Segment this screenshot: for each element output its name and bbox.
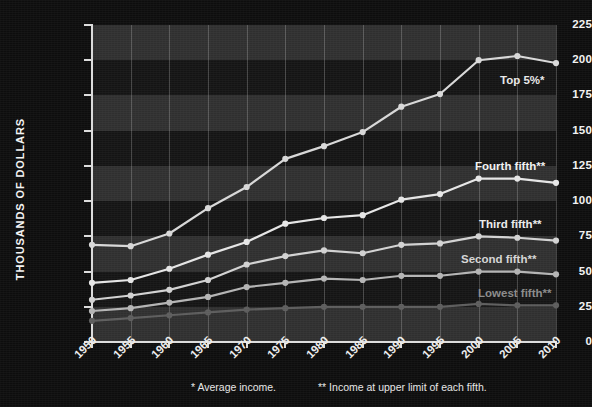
data-point: [360, 250, 366, 256]
data-point: [437, 240, 443, 246]
data-point: [89, 308, 95, 314]
data-point: [476, 268, 482, 274]
data-point: [128, 305, 134, 311]
data-point: [553, 271, 559, 277]
data-point: [244, 261, 250, 267]
data-point: [205, 294, 211, 300]
data-point: [553, 302, 559, 308]
data-point: [128, 315, 134, 321]
data-point: [514, 175, 520, 181]
footnote-average-income: * Average income.: [191, 381, 276, 393]
data-point: [360, 277, 366, 283]
data-point: [476, 233, 482, 239]
data-point: [514, 53, 520, 59]
data-point: [128, 292, 134, 298]
data-point: [244, 184, 250, 190]
data-point: [282, 280, 288, 286]
data-point: [128, 277, 134, 283]
data-point: [321, 247, 327, 253]
data-point: [476, 175, 482, 181]
data-point: [282, 305, 288, 311]
data-point: [514, 235, 520, 241]
data-point: [205, 205, 211, 211]
series-label-third-fifth: Third fifth**: [479, 218, 542, 230]
data-point: [514, 268, 520, 274]
data-point: [166, 230, 172, 236]
data-point: [166, 266, 172, 272]
data-point: [398, 273, 404, 279]
series-label-second-fifth: Second fifth**: [461, 253, 536, 265]
data-point: [89, 297, 95, 303]
data-point: [398, 304, 404, 310]
footnotes: * Average income.** Income at upper limi…: [191, 381, 487, 393]
data-point: [553, 237, 559, 243]
data-point: [205, 252, 211, 258]
data-point: [398, 242, 404, 248]
data-point: [244, 307, 250, 313]
data-point: [437, 273, 443, 279]
data-point: [205, 277, 211, 283]
data-point: [166, 287, 172, 293]
data-point: [398, 197, 404, 203]
series-lines: [0, 0, 592, 407]
data-point: [360, 129, 366, 135]
data-point: [476, 57, 482, 63]
data-point: [321, 143, 327, 149]
data-point: [205, 309, 211, 315]
data-point: [128, 243, 134, 249]
series-label-fourth-fifth: Fourth fifth**: [475, 160, 545, 172]
data-point: [360, 212, 366, 218]
data-point: [360, 304, 366, 310]
data-point: [89, 242, 95, 248]
data-point: [398, 104, 404, 110]
data-point: [553, 60, 559, 66]
series-line: [92, 179, 556, 283]
data-point: [244, 284, 250, 290]
data-point: [476, 301, 482, 307]
data-point: [89, 280, 95, 286]
data-point: [321, 276, 327, 282]
data-point: [514, 302, 520, 308]
data-point: [282, 253, 288, 259]
data-point: [166, 312, 172, 318]
data-point: [166, 299, 172, 305]
data-point: [321, 215, 327, 221]
data-point: [437, 91, 443, 97]
data-point: [437, 304, 443, 310]
data-point: [437, 191, 443, 197]
data-point: [553, 180, 559, 186]
data-point: [321, 304, 327, 310]
data-point: [244, 239, 250, 245]
data-point: [282, 156, 288, 162]
series-label-top-5: Top 5%*: [500, 74, 545, 86]
series-label-lowest-fifth: Lowest fifth**: [478, 287, 551, 299]
chart-canvas: THOUSANDS OF DOLLARS 0255075100125150175…: [0, 0, 592, 407]
series-fourth-fifth: [89, 175, 559, 285]
data-point: [89, 318, 95, 324]
data-point: [282, 221, 288, 227]
footnote-upper-limit: ** Income at upper limit of each fifth.: [318, 381, 487, 393]
